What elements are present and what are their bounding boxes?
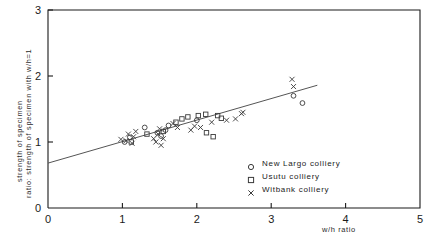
y-axis-title-line1: ratio: strength of specimen with w/h=1 [24, 49, 33, 198]
x-marker [209, 120, 214, 125]
x-marker-icon [246, 188, 256, 198]
y-tick-label: 1 [35, 136, 41, 148]
x-marker [290, 77, 295, 82]
square-marker [204, 131, 208, 135]
y-axis-title-line2: strength of specimen [15, 100, 24, 182]
square-marker [180, 117, 184, 121]
x-tick-label: 0 [45, 213, 51, 225]
legend-label: Usutu colliery [262, 172, 320, 181]
circle-marker [142, 125, 147, 130]
x-tick-label: 1 [119, 213, 125, 225]
x-marker [233, 116, 238, 121]
legend-label: Witbank colliery [262, 185, 329, 194]
square-marker [204, 112, 208, 116]
x-marker [151, 136, 156, 141]
x-marker [291, 84, 296, 89]
scatter-chart: 0123450123 [0, 0, 426, 252]
circle-marker [300, 101, 305, 106]
x-marker [159, 143, 164, 148]
x-marker [133, 129, 138, 134]
y-tick-label: 3 [35, 4, 41, 16]
circle-marker [166, 123, 171, 128]
square-marker-icon [246, 175, 256, 185]
square-marker [196, 113, 200, 117]
x-tick-label: 3 [268, 213, 274, 225]
square-marker [211, 135, 215, 139]
x-marker [198, 125, 203, 130]
circle-marker [291, 93, 296, 98]
x-marker [153, 140, 158, 145]
x-marker [240, 110, 245, 115]
x-marker [192, 124, 197, 129]
square-marker [186, 115, 190, 119]
y-tick-label: 0 [35, 202, 41, 214]
legend-label: New Largo colliery [262, 159, 340, 168]
x-tick-label: 5 [417, 213, 423, 225]
circle-marker-icon [246, 162, 256, 172]
y-tick-label: 2 [35, 70, 41, 82]
x-tick-label: 2 [194, 213, 200, 225]
x-axis-title: w/h ratio [322, 225, 356, 234]
x-marker [118, 137, 123, 142]
x-tick-label: 4 [343, 213, 349, 225]
x-marker [224, 118, 229, 123]
